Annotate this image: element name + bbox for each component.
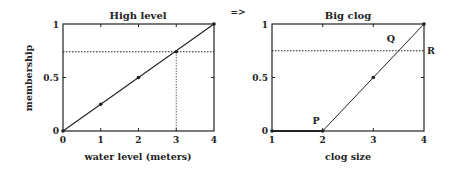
- annotation-r: R: [427, 45, 435, 56]
- x-axis-label: clog size: [325, 151, 371, 162]
- x-axis-label: water level (meters): [83, 151, 191, 162]
- x-tick-label: 3: [173, 135, 179, 145]
- chart-title: Big clog: [325, 10, 371, 21]
- y-tick-label: 0: [262, 126, 268, 136]
- x-tick-label: 4: [421, 135, 427, 145]
- x-tick-label: 2: [320, 135, 326, 145]
- x-ticks: [272, 24, 424, 131]
- y-tick-label: 0.5: [43, 73, 59, 83]
- figure: High level 1 0.5 0 0: [0, 0, 453, 173]
- chart-title: High level: [109, 10, 166, 21]
- x-tick-label: 1: [269, 135, 275, 145]
- series-line: [272, 24, 424, 131]
- series-markers: [270, 22, 426, 133]
- x-tick-label: 3: [370, 135, 376, 145]
- x-tick-label: 2: [135, 135, 141, 145]
- y-tick-label: 1: [53, 20, 59, 30]
- y-tick-label: 0.5: [252, 73, 268, 83]
- chart-big-clog: Big clog 1 0.5 0 1 2 3 4 clog size P Q R: [252, 10, 435, 162]
- x-tick-label: 0: [60, 135, 66, 145]
- y-axis-label: membership: [23, 44, 34, 111]
- annotation-p: P: [312, 115, 319, 126]
- y-tick-label: 0: [53, 126, 59, 136]
- x-tick-label: 1: [98, 135, 104, 145]
- x-tick-label: 4: [211, 135, 217, 145]
- chart-high-level: High level 1 0.5 0 0: [23, 10, 217, 162]
- annotation-q: Q: [387, 33, 395, 44]
- implies-arrow: =>: [230, 7, 245, 17]
- y-tick-label: 1: [262, 20, 268, 30]
- plot-frame: [272, 24, 424, 131]
